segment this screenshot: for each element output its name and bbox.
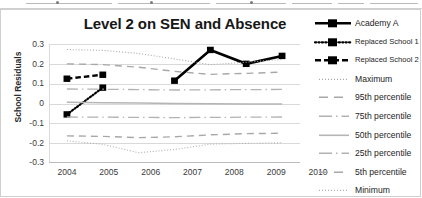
chart-legend: Academy A Replaced School 1 Replaced Sch… xyxy=(313,14,421,198)
y-tick-label: 0.3 xyxy=(18,39,44,49)
legend-label: Maximum xyxy=(355,70,392,89)
series-line xyxy=(67,88,103,115)
x-tick-label: 2009 xyxy=(256,167,296,177)
chart-screenshot: Level 2 on SEN and Absence School Residu… xyxy=(0,0,422,198)
data-point-marker xyxy=(207,47,214,53)
series-line xyxy=(67,141,282,153)
legend-item-75th-percentile[interactable]: 75th percentile xyxy=(313,107,421,126)
legend-label: Replaced School 1 xyxy=(355,33,419,52)
x-tick-label: 2004 xyxy=(47,167,87,177)
y-tick-label: -0.2 xyxy=(18,138,44,148)
legend-label: 75th percentile xyxy=(355,107,411,126)
series-line xyxy=(175,50,283,81)
legend-item-95th-percentile[interactable]: 95th percentile xyxy=(313,88,421,107)
y-tick-label: 0.2 xyxy=(18,59,44,69)
legend-symbol-dashed xyxy=(313,88,353,107)
legend-item-academy-a[interactable]: Academy A xyxy=(313,14,421,33)
legend-symbol-dotted-marker xyxy=(313,33,353,52)
series-line xyxy=(67,102,282,104)
legend-item-replaced-school-1[interactable]: Replaced School 1 xyxy=(313,33,421,52)
data-point-marker xyxy=(99,72,106,78)
series-layer xyxy=(49,44,300,163)
data-point-marker xyxy=(279,53,286,59)
legend-item-minimum[interactable]: Minimum xyxy=(313,181,421,198)
y-tick-label: 0 xyxy=(18,98,44,108)
legend-symbol-solid-marker xyxy=(313,14,353,33)
x-tick-label: 2006 xyxy=(131,167,171,177)
series-line xyxy=(67,117,282,118)
legend-label: Minimum xyxy=(355,181,390,198)
legend-symbol-fine-dotted xyxy=(313,70,353,89)
legend-item-maximum[interactable]: Maximum xyxy=(313,70,421,89)
legend-symbol-dash-dot xyxy=(313,107,353,126)
legend-label: 95th percentile xyxy=(355,88,411,107)
legend-item-replaced-school-2[interactable]: Replaced School 2 xyxy=(313,51,421,70)
plot-area xyxy=(49,44,300,163)
legend-item-50th-percentile[interactable]: 50th percentile xyxy=(313,126,421,145)
x-tick-label: 2008 xyxy=(214,167,254,177)
legend-label: Academy A xyxy=(355,14,398,33)
legend-item-25th-percentile[interactable]: 25th percentile xyxy=(313,144,421,163)
legend-symbol-fine-dotted xyxy=(313,181,353,198)
legend-symbol-solid xyxy=(313,126,353,145)
data-point-marker xyxy=(64,76,71,82)
series-line xyxy=(67,75,103,79)
legend-symbol-dashed-marker xyxy=(313,51,353,70)
series-line xyxy=(67,133,282,137)
legend-symbol-dash-dot xyxy=(313,144,353,163)
legend-label: Replaced School 2 xyxy=(355,51,419,70)
legend-label: 5th percentile xyxy=(355,163,407,182)
x-axis-ticks: 2004 2005 2006 2007 2008 2009 2010 xyxy=(49,166,300,180)
x-tick-label: 2007 xyxy=(173,167,213,177)
y-tick-label: -0.3 xyxy=(18,157,44,167)
chart-title: Level 2 on SEN and Absence xyxy=(60,15,310,32)
legend-symbol-dashed xyxy=(313,163,353,182)
legend-label: 25th percentile xyxy=(355,144,411,163)
y-tick-label: 0.1 xyxy=(18,78,44,88)
legend-label: 50th percentile xyxy=(355,126,411,145)
x-tick-label: 2005 xyxy=(89,167,129,177)
legend-item-5th-percentile[interactable]: 5th percentile xyxy=(313,163,421,182)
series-line xyxy=(67,64,282,75)
data-point-marker xyxy=(171,77,178,83)
y-tick-label: -0.1 xyxy=(18,118,44,128)
